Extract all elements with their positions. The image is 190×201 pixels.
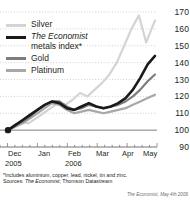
y-tick-170: 170 — [175, 8, 189, 16]
legend-swatch-metals-index — [6, 36, 26, 39]
x-tick-dec: Dec — [8, 150, 21, 158]
y-tick-100: 100 — [175, 126, 189, 134]
y-tick-150: 150 — [175, 42, 189, 50]
x-tick-may: May — [143, 150, 157, 158]
x-tick-jan: Jan — [38, 150, 50, 158]
x-tick-mar: Mar — [96, 150, 109, 158]
y-tick-160: 160 — [175, 25, 189, 33]
sources-rest: ; Thomson Datastream — [60, 178, 113, 184]
x-year-2006: 2006 — [65, 160, 82, 168]
x-year-2005: 2005 — [5, 160, 22, 168]
y-tick-130: 130 — [175, 76, 189, 84]
y-tick-90: 90 — [179, 143, 189, 151]
y-tick-110: 110 — [175, 109, 189, 117]
sources-prefix: Sources: — [3, 178, 25, 184]
x-tick-feb: Feb — [68, 150, 81, 158]
x-tick-apr: Apr — [122, 150, 134, 158]
legend-label-metals-index-italic: The Economist — [31, 31, 88, 41]
publication-credit: The Economist, May 4th 2006 — [127, 192, 188, 197]
y-tick-140: 140 — [175, 59, 189, 67]
legend-label-metals-index-line2: metals index* — [31, 41, 82, 51]
legend-item-gold: Gold — [6, 54, 102, 64]
legend-swatch-silver — [6, 24, 26, 27]
y-tick-120: 120 — [175, 92, 189, 100]
sources-italic: The Economist — [25, 178, 60, 184]
legend-label-platinum: Platinum — [31, 66, 64, 76]
legend-label-silver: Silver — [31, 20, 52, 30]
chart-footnotes: *Includes aluminium, copper, lead, nicke… — [3, 172, 153, 185]
legend-item-metals-index: The Economist metals index* — [6, 32, 102, 51]
legend-item-platinum: Platinum — [6, 66, 102, 76]
chart-legend: Silver The Economist metals index* Gold … — [6, 20, 102, 78]
footnote-sources: Sources: The Economist; Thomson Datastre… — [3, 178, 153, 184]
legend-label-gold: Gold — [31, 54, 49, 64]
legend-item-silver: Silver — [6, 20, 102, 30]
legend-label-metals-index: The Economist metals index* — [31, 32, 88, 51]
legend-swatch-gold — [6, 57, 26, 60]
economist-metals-chart: 90100110120130140150160170 DecJanFebMarA… — [0, 0, 190, 201]
legend-swatch-platinum — [6, 69, 26, 72]
